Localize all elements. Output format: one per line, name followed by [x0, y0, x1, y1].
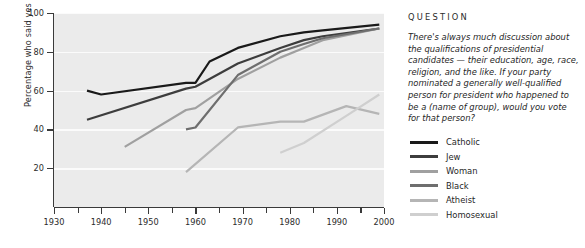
legend-label: Black [446, 181, 469, 191]
x-tick-mark [290, 208, 291, 214]
x-tick-label: 1940 [81, 217, 121, 227]
x-tick-label: 1950 [128, 217, 168, 227]
x-tick-mark [101, 208, 102, 214]
y-tick-label: 60 [16, 86, 44, 96]
chart-figure: Percentage who said yes 20406080100 1930… [0, 0, 585, 248]
x-tick-mark-minor [78, 208, 79, 213]
legend-label: Catholic [446, 137, 480, 147]
gridline [54, 168, 384, 169]
y-tick-label: 100 [16, 8, 44, 18]
y-tick-label: 20 [16, 163, 44, 173]
x-tick-mark [54, 208, 55, 214]
x-tick-label: 1960 [175, 217, 215, 227]
legend-swatch [410, 213, 438, 216]
plot-area [54, 13, 384, 207]
legend-swatch [410, 141, 438, 144]
y-tick-label: 40 [16, 124, 44, 134]
x-tick-label: 1930 [34, 217, 74, 227]
y-tick-mark [47, 168, 53, 169]
y-tick-label: 80 [16, 47, 44, 57]
x-tick-label: 2000 [364, 217, 404, 227]
x-tick-mark [384, 208, 385, 214]
legend-item-homosexual[interactable]: Homosexual [408, 208, 585, 223]
legend-item-atheist[interactable]: Atheist [408, 193, 585, 208]
legend-swatch [410, 170, 438, 173]
legend-label: Jew [446, 152, 460, 162]
x-tick-mark-minor [313, 208, 314, 213]
y-tick-mark [47, 52, 53, 53]
question-body: There's always much discussion about the… [408, 32, 580, 125]
x-tick-mark-minor [266, 208, 267, 213]
x-tick-mark-minor [125, 208, 126, 213]
x-tick-mark [337, 208, 338, 214]
y-axis-label: Percentage who said yes [23, 0, 33, 135]
x-tick-mark-minor [172, 208, 173, 213]
chart-panel: Percentage who said yes 20406080100 1930… [0, 0, 400, 248]
legend-swatch [410, 199, 438, 202]
legend-label: Woman [446, 166, 478, 176]
side-panel: QUESTION There's always much discussion … [408, 0, 585, 248]
x-tick-mark [195, 208, 196, 214]
x-tick-label: 1980 [270, 217, 310, 227]
legend: CatholicJewWomanBlackAtheistHomosexual [408, 135, 585, 222]
y-axis-spine [53, 13, 54, 207]
x-tick-mark-minor [219, 208, 220, 213]
question-heading: QUESTION [408, 12, 469, 22]
legend-item-black[interactable]: Black [408, 179, 585, 194]
x-tick-mark-minor [360, 208, 361, 213]
legend-item-jew[interactable]: Jew [408, 150, 585, 165]
gridline [54, 129, 384, 130]
legend-label: Homosexual [446, 210, 498, 220]
x-tick-label: 1990 [317, 217, 357, 227]
y-tick-mark [47, 13, 53, 14]
x-tick-mark [148, 208, 149, 214]
legend-item-woman[interactable]: Woman [408, 164, 585, 179]
x-tick-label: 1970 [223, 217, 263, 227]
legend-swatch [410, 184, 438, 187]
gridline [54, 52, 384, 53]
legend-item-catholic[interactable]: Catholic [408, 135, 585, 150]
legend-swatch [410, 155, 438, 158]
gridline [54, 91, 384, 92]
y-tick-mark [47, 129, 53, 130]
x-tick-mark [243, 208, 244, 214]
gridline [54, 13, 384, 14]
legend-label: Atheist [446, 195, 475, 205]
y-tick-mark [47, 91, 53, 92]
